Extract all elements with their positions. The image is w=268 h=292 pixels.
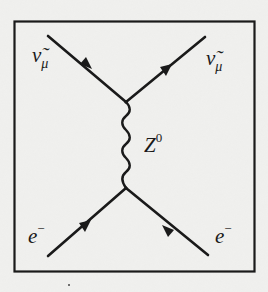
lower-vertex [124,186,127,189]
top-right-particle-label: ν̃μ [206,48,222,73]
boson-label: Z0 [144,133,162,156]
particle-symbol: e [215,224,224,248]
particle-symbol: e [28,224,37,248]
particle-superscript: − [224,221,231,236]
particle-subscript: μ [41,56,48,71]
particle-symbol: ν̃ [32,43,41,67]
print-speck [68,284,70,286]
bottom-right-particle-label: e− [215,224,232,247]
upper-vertex [124,100,127,103]
bottom-left-particle-label: e− [28,224,45,247]
particle-symbol: ν̃ [206,46,215,70]
boson-symbol: Z [144,133,156,157]
top-left-particle-label: ν̃μ [32,45,48,70]
boson-superscript: 0 [156,130,163,145]
particle-superscript: − [37,221,44,236]
particle-subscript: μ [215,59,222,74]
